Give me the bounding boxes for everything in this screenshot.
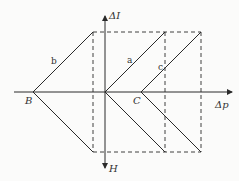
diagram-svg: ΔI H Δp B C b a c — [0, 0, 239, 181]
line-label-b: b — [51, 56, 57, 66]
point-label-b: B — [24, 95, 32, 106]
axis-label-delta-i: ΔI — [108, 10, 121, 21]
line-label-a: a — [127, 55, 133, 65]
line-label-c: c — [158, 62, 163, 72]
axis-label-h: H — [108, 163, 118, 174]
diagram-canvas: ΔI H Δp B C b a c — [0, 0, 239, 181]
axis-label-delta-p: Δp — [214, 99, 229, 110]
point-label-c: C — [133, 95, 141, 106]
